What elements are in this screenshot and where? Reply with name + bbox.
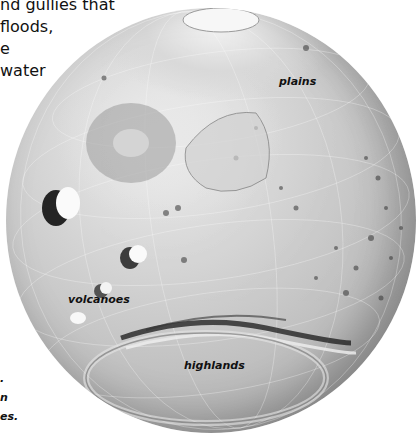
label-highlands: highlands (184, 359, 245, 372)
caption-line: es. (0, 409, 18, 425)
label-volcanoes: volcanoes (68, 293, 130, 306)
label-plains: plains (279, 75, 316, 88)
caption-line: . (0, 371, 18, 387)
caption-line: n (0, 390, 18, 406)
figure-caption: . n es. (0, 371, 18, 425)
